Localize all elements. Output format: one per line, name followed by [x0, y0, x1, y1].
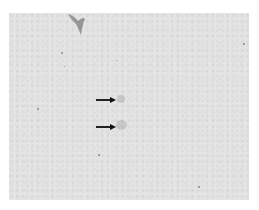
arrow-lower: [96, 124, 116, 130]
speck: [116, 60, 117, 61]
arrow-head-icon: [110, 124, 116, 130]
speck: [61, 52, 63, 54]
speck: [37, 108, 39, 110]
arrow-shaft: [96, 99, 111, 101]
speck: [98, 154, 100, 156]
speck: [198, 186, 200, 188]
target-structure-lower: [116, 120, 127, 130]
arrow-head-icon: [110, 97, 116, 103]
speck: [243, 43, 245, 45]
arrow-shaft: [96, 126, 111, 128]
speck: [64, 66, 65, 67]
dark-debris-blob: [66, 13, 88, 37]
micrograph-image: [9, 13, 249, 200]
target-structure-upper: [117, 95, 125, 103]
arrow-upper: [96, 97, 116, 103]
